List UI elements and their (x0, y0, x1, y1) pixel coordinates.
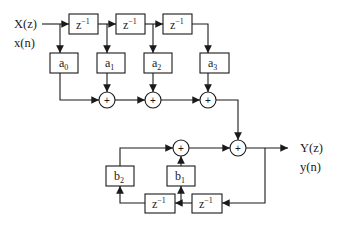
coef-a3: a3 (200, 53, 229, 73)
delay-bottom-2: z−1 (145, 194, 175, 213)
coef-b2: b2 (106, 166, 134, 186)
output-label-z: Y(z) (300, 141, 323, 155)
b2-to-adder (120, 148, 173, 166)
input-label-n: x(n) (14, 36, 35, 50)
adder-output: + (230, 140, 246, 156)
adder-fb: + (173, 140, 189, 156)
coef-a1: a1 (97, 53, 125, 73)
tap-3 (192, 24, 208, 53)
a0-to-adder (60, 73, 99, 100)
adder-ff-3: + (200, 92, 216, 108)
input-label-z: X(z) (14, 17, 37, 31)
filter-diagram: X(z) x(n) z−1 z−1 z−1 a0 a1 a2 a3 (0, 0, 339, 226)
coef-a0: a0 (50, 53, 78, 73)
svg-text:+: + (205, 95, 211, 106)
delay-bottom-1: z−1 (192, 194, 222, 213)
delay-top-3: z−1 (163, 14, 192, 34)
adder-ff-1: + (99, 92, 115, 108)
ff-to-output-adder (216, 100, 238, 140)
to-b2 (120, 186, 145, 203)
delay-top-1: z−1 (69, 14, 98, 34)
svg-text:+: + (104, 95, 110, 106)
coef-b1: b1 (167, 166, 195, 186)
svg-text:+: + (150, 95, 156, 106)
delay-top-2: z−1 (116, 14, 145, 34)
coef-a2: a2 (144, 53, 172, 73)
svg-text:+: + (235, 143, 241, 154)
feedback-tap (222, 148, 265, 203)
output-label-n: y(n) (300, 160, 321, 174)
adder-ff-2: + (145, 92, 161, 108)
svg-text:+: + (178, 143, 184, 154)
